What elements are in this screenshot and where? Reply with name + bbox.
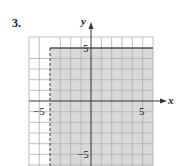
tick-label-y-pos5: 5 bbox=[83, 43, 89, 54]
x-axis-label: x bbox=[168, 95, 174, 106]
y-axis-arrow-icon bbox=[89, 22, 94, 29]
x-axis-arrow-icon bbox=[160, 99, 167, 104]
tick-label-y-neg5: −5 bbox=[77, 149, 89, 160]
y-axis-label: y bbox=[81, 16, 86, 27]
tick-label-x-neg5: −5 bbox=[33, 106, 45, 117]
inequality-graph bbox=[0, 0, 180, 166]
tick-label-x-pos5: 5 bbox=[139, 106, 145, 117]
